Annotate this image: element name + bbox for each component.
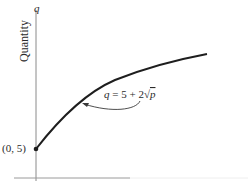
- equation-p: p: [149, 88, 156, 100]
- intercept-label: (0, 5): [2, 142, 26, 155]
- arrowhead-icon: [82, 103, 89, 107]
- equation-rest: = 5 + 2: [110, 88, 144, 100]
- equation-label: q = 5 + 2√p: [104, 88, 156, 100]
- curve-line: [36, 54, 207, 149]
- intercept-point: [34, 147, 39, 152]
- annotation-arrow: [84, 101, 140, 109]
- demand-chart: Quantity q (0, 5) q = 5 + 2√p: [0, 0, 248, 181]
- y-axis-title: Quantity: [17, 20, 31, 62]
- y-axis-symbol: q: [34, 2, 40, 14]
